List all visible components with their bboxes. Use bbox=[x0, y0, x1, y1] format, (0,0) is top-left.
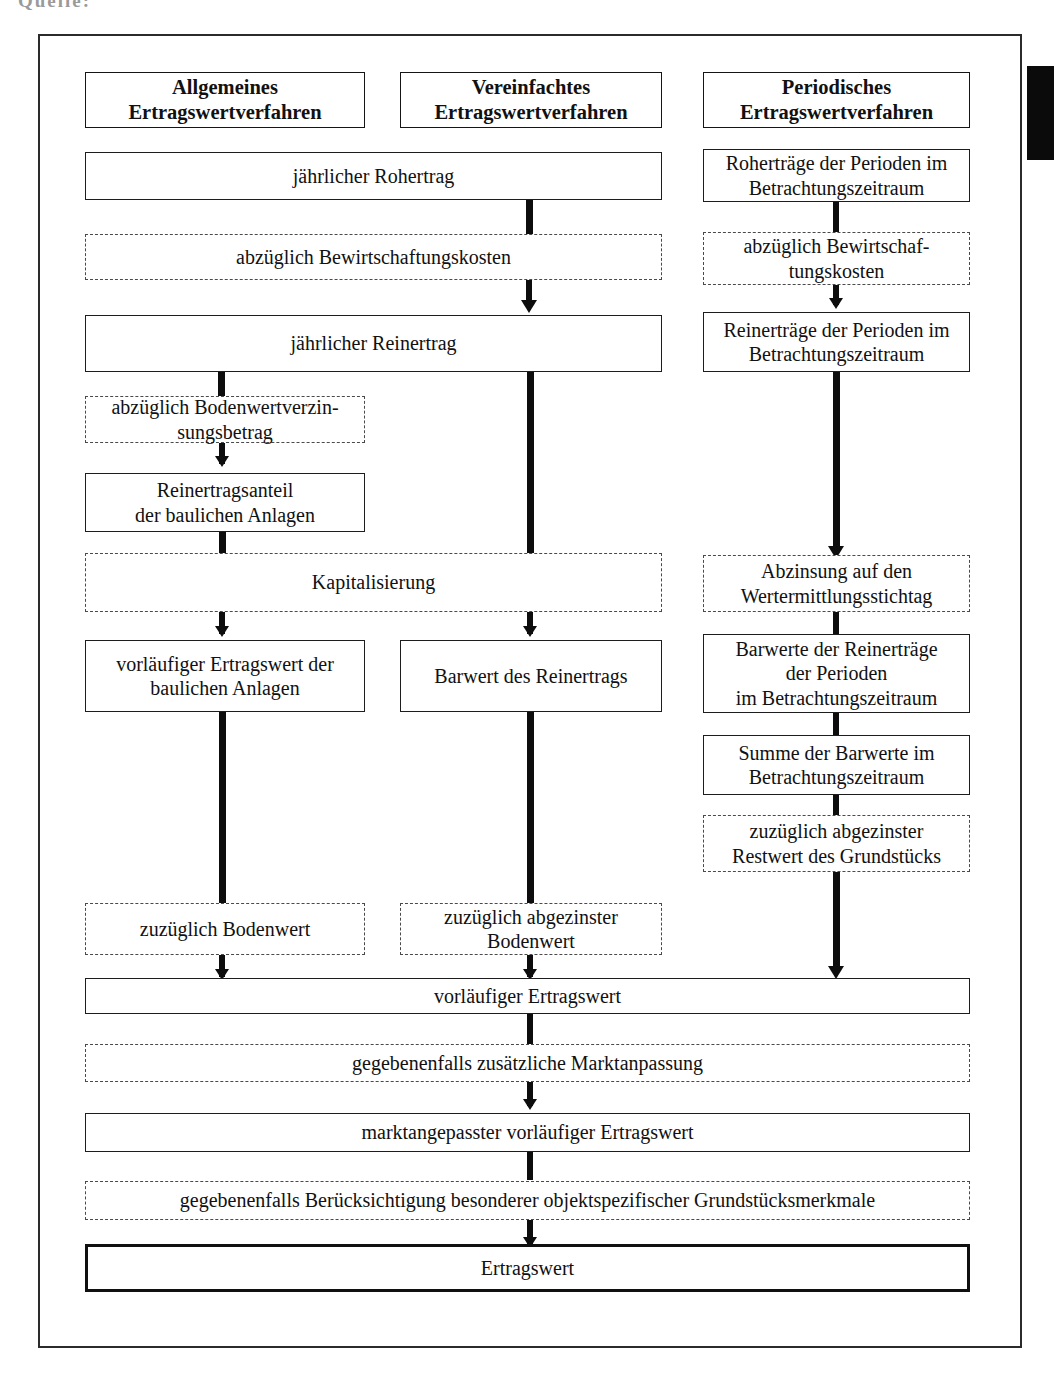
node-jaehrlicher-reinertrag-label: jährlicher Reinertrag bbox=[290, 331, 456, 355]
node-jaehrlicher-reinertrag: jährlicher Reinertrag bbox=[85, 315, 662, 372]
node-reinertraege-der-perioden: Reinerträge der Perioden im Betrachtungs… bbox=[703, 312, 970, 372]
node-zuzueglich-bodenwert: zuzüglich Bodenwert bbox=[85, 903, 365, 955]
connector-markt-vorl-to-besondere-merkmale bbox=[527, 1152, 533, 1180]
node-reinertraege-line2: Betrachtungszeitraum bbox=[749, 343, 925, 365]
node-abzinsung-wertermittlungsstichtag: Abzinsung auf den Wertermittlungsstichta… bbox=[703, 555, 970, 612]
node-barwert-reinertrag-label: Barwert des Reinertrags bbox=[434, 664, 627, 688]
node-ertragswert: Ertragswert bbox=[85, 1244, 970, 1292]
header-left-line2: Ertragswertverfahren bbox=[128, 101, 321, 123]
node-reinertragsanteil-line2: der baulichen Anlagen bbox=[135, 504, 315, 526]
node-vorlaeufiger-ertragswert-baulichen-anlagen: vorläufiger Ertragswert der baulichen An… bbox=[85, 640, 365, 712]
node-reinertragsanteil-line1: Reinertragsanteil bbox=[157, 479, 294, 501]
node-markt-vorl-ertragswert-label: marktangepasster vorläufiger Ertragswert bbox=[361, 1120, 693, 1144]
arrowhead-to-reinertrag bbox=[521, 300, 537, 313]
arrowhead-to-reinertraege-perioden bbox=[829, 298, 843, 309]
node-zuzug-bodenwert-label: zuzüglich Bodenwert bbox=[140, 917, 311, 941]
node-zuzug-abgez-boden-line2: Bodenwert bbox=[487, 930, 575, 952]
node-barwerte-der-reinertraege-perioden: Barwerte der Reinerträge der Perioden im… bbox=[703, 634, 970, 713]
node-abzug-bewirt-right-line1: abzüglich Bewirtschaf- bbox=[743, 235, 929, 257]
node-abzug-boden-line1: abzüglich Bodenwertverzin- bbox=[111, 396, 338, 418]
diagram-stage: Quelle: bbox=[0, 0, 1054, 1382]
connector-rohertrag-to-bewirtschaftung bbox=[526, 200, 533, 234]
header-right-line1: Periodisches bbox=[782, 76, 891, 98]
header-allgemeines-ertragswertverfahren: Allgemeines Ertragswertverfahren bbox=[85, 72, 365, 128]
node-jaehrlicher-rohertrag: jährlicher Rohertrag bbox=[85, 152, 662, 200]
node-besondere-objektspezifische-grundstuecksmerkmale: gegebenenfalls Berücksichtigung besonder… bbox=[85, 1181, 970, 1220]
node-marktangepasster-vorlaeufiger-ertragswert: marktangepasster vorläufiger Ertragswert bbox=[85, 1113, 970, 1152]
node-barwerte-line3: im Betrachtungszeitraum bbox=[736, 687, 938, 709]
header-right-line2: Ertragswertverfahren bbox=[740, 101, 933, 123]
node-ertragswert-label: Ertragswert bbox=[481, 1256, 574, 1280]
node-vorlaeufiger-ertragswert: vorläufiger Ertragswert bbox=[85, 978, 970, 1014]
node-abzug-bewirt-right-line2: tungskosten bbox=[789, 260, 885, 282]
arrowhead-to-reinertragsanteil bbox=[215, 456, 229, 467]
connector-restwert-to-vorl-ertragswert bbox=[833, 872, 840, 972]
header-vereinfachtes-ertragswertverfahren: Vereinfachtes Ertragswertverfahren bbox=[400, 72, 662, 128]
node-abzug-boden-line2: sungsbetrag bbox=[177, 421, 273, 443]
node-reinertragsanteil-baulichen-anlagen: Reinertragsanteil der baulichen Anlagen bbox=[85, 473, 365, 532]
node-gegebenenfalls-marktanpassung: gegebenenfalls zusätzliche Marktanpassun… bbox=[85, 1044, 970, 1082]
header-middle-line1: Vereinfachtes bbox=[472, 76, 590, 98]
node-rohertraege-der-perioden: Roherträge der Perioden im Betrachtungsz… bbox=[703, 149, 970, 202]
node-kapitalisierung-label: Kapitalisierung bbox=[312, 570, 435, 594]
node-zuzueglich-abgezinster-bodenwert: zuzüglich abgezinster Bodenwert bbox=[400, 903, 662, 955]
node-reinertraege-line1: Reinerträge der Perioden im bbox=[723, 319, 949, 341]
connector-summe-to-restwert bbox=[833, 795, 839, 815]
node-abzueglich-bewirtschaftungskosten: abzüglich Bewirtschaftungskosten bbox=[85, 234, 662, 280]
header-middle-line2: Ertragswertverfahren bbox=[434, 101, 627, 123]
node-rohertraege-line1: Roherträge der Perioden im bbox=[726, 152, 948, 174]
scan-edge-mark bbox=[1027, 66, 1054, 160]
node-abzinsung-line1: Abzinsung auf den bbox=[761, 560, 912, 582]
caption-remnant: Quelle: bbox=[18, 0, 298, 10]
node-zuzug-abgez-boden-line1: zuzüglich abgezinster bbox=[444, 906, 618, 928]
connector-reinertraege-to-abzinsung bbox=[833, 372, 840, 552]
node-abzueglich-bodenwertverzinsungsbetrag: abzüglich Bodenwertverzin- sungsbetrag bbox=[85, 396, 365, 443]
node-vorl-baulich-line2: baulichen Anlagen bbox=[150, 677, 299, 699]
connector-vorl-ertragswert-to-marktanpassung bbox=[527, 1014, 533, 1044]
node-besondere-merkmale-label: gegebenenfalls Berücksichtigung besonder… bbox=[180, 1188, 875, 1212]
node-vorl-ertragswert-label: vorläufiger Ertragswert bbox=[434, 984, 621, 1008]
node-summe-barwerte-line1: Summe der Barwerte im bbox=[738, 742, 934, 764]
header-periodisches-ertragswertverfahren: Periodisches Ertragswertverfahren bbox=[703, 72, 970, 128]
node-marktanpassung-label: gegebenenfalls zusätzliche Marktanpassun… bbox=[352, 1051, 703, 1075]
node-zuzug-restwert-line2: Restwert des Grundstücks bbox=[732, 845, 941, 867]
node-summe-der-barwerte: Summe der Barwerte im Betrachtungszeitra… bbox=[703, 735, 970, 795]
node-barwert-des-reinertrags: Barwert des Reinertrags bbox=[400, 640, 662, 712]
node-abzueglich-bewirtschaftungskosten-periodisch: abzüglich Bewirtschaf- tungskosten bbox=[703, 232, 970, 285]
node-abzinsung-line2: Wertermittlungsstichtag bbox=[741, 585, 933, 607]
connector-roherträge-to-bewirtschaftung-right bbox=[833, 200, 839, 232]
node-barwerte-line2: der Perioden bbox=[786, 662, 888, 684]
connector-reinertrag-to-kapitalisierung-middle bbox=[527, 372, 534, 558]
node-summe-barwerte-line2: Betrachtungszeitraum bbox=[749, 766, 925, 788]
node-barwerte-line1: Barwerte der Reinerträge bbox=[735, 638, 937, 660]
node-zuzug-restwert-line1: zuzüglich abgezinster bbox=[750, 820, 924, 842]
node-rohertraege-line2: Betrachtungszeitraum bbox=[749, 177, 925, 199]
node-kapitalisierung: Kapitalisierung bbox=[85, 553, 662, 612]
arrowhead-to-markt-vorl-ertragswert bbox=[523, 1099, 537, 1110]
connector-abzinsung-to-barwerte bbox=[833, 612, 839, 634]
arrowhead-to-vorl-ertragswert-baulich bbox=[215, 626, 229, 637]
connector-barwerte-to-summe bbox=[833, 713, 839, 735]
node-zuzueglich-abgezinster-restwert: zuzüglich abgezinster Restwert des Grund… bbox=[703, 815, 970, 872]
connector-barwert-to-zuzuglich-abgezinster-bodenwert bbox=[527, 712, 534, 906]
node-jaehrlicher-rohertrag-label: jährlicher Rohertrag bbox=[293, 164, 455, 188]
connector-vorl-baulich-to-zuzuglich-bodenwert bbox=[219, 712, 226, 906]
header-left-line1: Allgemeines bbox=[172, 76, 278, 98]
node-abzug-bewirt-label: abzüglich Bewirtschaftungskosten bbox=[236, 245, 511, 269]
arrowhead-to-barwert-reinertrag bbox=[523, 626, 537, 637]
node-vorl-baulich-line1: vorläufiger Ertragswert der bbox=[116, 653, 334, 675]
